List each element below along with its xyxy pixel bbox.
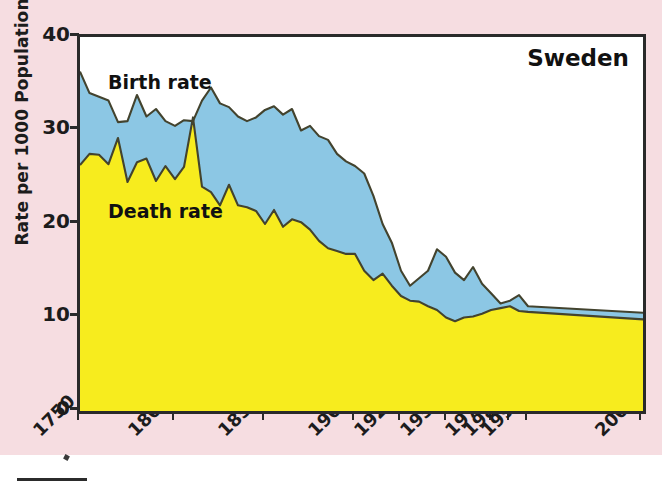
paper-speck xyxy=(63,454,70,461)
chart-series-group xyxy=(80,72,643,411)
plot-area: Birth rate Death rate Sweden xyxy=(77,34,646,414)
death-rate-annotation: Death rate xyxy=(108,200,223,222)
y-tick-label-40: 40 xyxy=(24,24,70,44)
area-chart-svg xyxy=(80,37,643,411)
figure-root: Rate per 1000 Population 40 30 20 10 0 1… xyxy=(0,0,662,493)
birth-rate-annotation: Birth rate xyxy=(108,71,212,93)
y-tick-label-30: 30 xyxy=(24,117,70,137)
chart-title: Sweden xyxy=(527,45,629,71)
y-tick-label-10: 10 xyxy=(24,304,70,324)
y-tick-label-20: 20 xyxy=(24,211,70,231)
caption-rule xyxy=(17,478,87,481)
